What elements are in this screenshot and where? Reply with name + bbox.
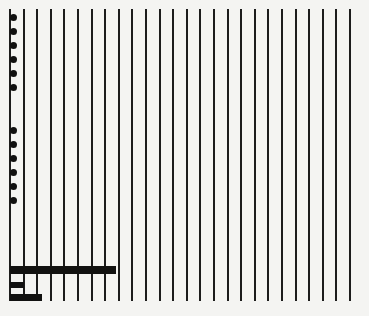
rule-line (213, 9, 215, 301)
rule-line (240, 9, 242, 301)
rule-line (131, 9, 133, 301)
rule-line (50, 9, 52, 301)
dot (10, 197, 17, 204)
rule-line (335, 9, 337, 301)
rule-line (308, 9, 310, 301)
rule-line (322, 9, 324, 301)
dot (10, 56, 17, 63)
dot (10, 28, 17, 35)
dot (10, 183, 17, 190)
rule-line (267, 9, 269, 301)
black-bar (10, 294, 42, 301)
dot (10, 169, 17, 176)
dot (10, 141, 17, 148)
rule-line (227, 9, 229, 301)
rule-line (118, 9, 120, 301)
ruled-sheet (0, 0, 369, 316)
rule-line (281, 9, 283, 301)
rule-line (77, 9, 79, 301)
rule-line (159, 9, 161, 301)
dot (10, 14, 17, 21)
rule-line (63, 9, 65, 301)
rule-line (295, 9, 297, 301)
dot (10, 42, 17, 49)
rule-line (36, 9, 38, 301)
rule-line (145, 9, 147, 301)
rule-line (186, 9, 188, 301)
dot (10, 84, 17, 91)
black-bar (10, 266, 116, 274)
black-bar (10, 282, 24, 288)
rule-line (254, 9, 256, 301)
rule-line (23, 9, 25, 301)
rule-line (91, 9, 93, 301)
dot (10, 127, 17, 134)
dot (10, 70, 17, 77)
rule-line (199, 9, 201, 301)
rule-line (349, 9, 351, 301)
rule-line (104, 9, 106, 301)
dot (10, 155, 17, 162)
rule-line (172, 9, 174, 301)
